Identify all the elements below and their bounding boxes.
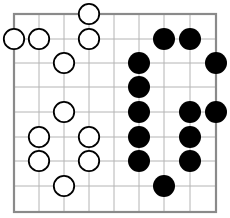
black-stone-icon[interactable] (153, 28, 175, 50)
white-stone-icon[interactable] (29, 29, 49, 49)
white-stone-icon[interactable] (54, 102, 74, 122)
black-stone-icon[interactable] (128, 76, 150, 98)
white-stone-icon[interactable] (4, 29, 24, 49)
white-stone-icon[interactable] (79, 151, 99, 171)
go-board[interactable] (0, 0, 230, 218)
stones-layer (4, 4, 227, 197)
white-stone-icon[interactable] (79, 127, 99, 147)
white-stone-icon[interactable] (79, 4, 99, 24)
white-stone-icon[interactable] (29, 151, 49, 171)
black-stone-icon[interactable] (179, 150, 201, 172)
black-stone-icon[interactable] (179, 28, 201, 50)
white-stone-icon[interactable] (29, 127, 49, 147)
black-stone-icon[interactable] (179, 126, 201, 148)
black-stone-icon[interactable] (205, 52, 227, 74)
black-stone-icon[interactable] (179, 101, 201, 123)
black-stone-icon[interactable] (153, 175, 175, 197)
black-stone-icon[interactable] (205, 101, 227, 123)
white-stone-icon[interactable] (54, 53, 74, 73)
white-stone-icon[interactable] (54, 176, 74, 196)
white-stone-icon[interactable] (79, 29, 99, 49)
black-stone-icon[interactable] (128, 101, 150, 123)
black-stone-icon[interactable] (128, 126, 150, 148)
black-stone-icon[interactable] (128, 52, 150, 74)
black-stone-icon[interactable] (128, 150, 150, 172)
